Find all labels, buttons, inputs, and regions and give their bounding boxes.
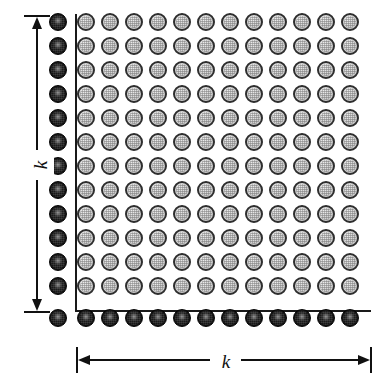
lattice-node-open [197,277,215,295]
lattice-node-open [341,229,359,247]
lattice-node-open [173,133,191,151]
lattice-node-open [341,37,359,55]
lattice-node-open [197,37,215,55]
lattice-node-boundary-left [49,277,67,295]
vertical-dimension-bottom-cap [24,311,50,313]
lattice-node-open [77,253,95,271]
lattice-node-open [317,85,335,103]
lattice-node-open [101,277,119,295]
lattice-node-open [125,157,143,175]
lattice-node-boundary-left [49,133,67,151]
vertical-dimension-shaft-lower [36,176,38,299]
lattice-node-open [245,61,263,79]
lattice-node-open [125,253,143,271]
lattice-node-open [317,109,335,127]
lattice-node-boundary-left [49,85,67,103]
lattice-node-open [197,133,215,151]
lattice-node-open [245,157,263,175]
lattice-node-boundary-bottom [173,309,191,327]
lattice-node-open [101,37,119,55]
lattice-node-open [293,253,311,271]
horizontal-dimension-right-cap [370,347,372,373]
lattice-node-open [173,253,191,271]
lattice-node-open [149,61,167,79]
lattice-node-boundary-bottom [317,309,335,327]
lattice-node-open [221,277,239,295]
lattice-node-open [245,229,263,247]
lattice-node-open [77,181,95,199]
lattice-node-open [221,85,239,103]
lattice-node-boundary-bottom [221,309,239,327]
lattice-node-open [245,277,263,295]
lattice-node-open [317,13,335,31]
lattice-node-open [197,181,215,199]
lattice-node-open [101,133,119,151]
lattice-node-open [269,181,287,199]
lattice-node-boundary-left [49,253,67,271]
lattice-node-boundary-bottom [341,309,359,327]
horizontal-dimension-shaft-left [90,359,210,361]
lattice-node-open [197,157,215,175]
lattice-node-open [125,85,143,103]
lattice-node-open [221,229,239,247]
lattice-node-open [149,205,167,223]
lattice-node-open [245,109,263,127]
lattice-node-open [125,133,143,151]
lattice-node-open [77,277,95,295]
lattice-node-open [125,109,143,127]
lattice-node-open [149,181,167,199]
lattice-node-open [317,277,335,295]
lattice-node-open [221,37,239,55]
lattice-node-open [293,157,311,175]
lattice-node-open [293,277,311,295]
lattice-node-open [125,205,143,223]
lattice-node-open [125,61,143,79]
vertical-dimension-shaft-upper [36,29,38,150]
lattice-node-open [293,85,311,103]
lattice-node-open [125,181,143,199]
lattice-node-open [293,109,311,127]
horizontal-dimension-label: k [211,346,241,376]
lattice-node-open [221,181,239,199]
arrow-head-left-icon [78,355,90,365]
lattice-node-open [149,13,167,31]
lattice-node-open [269,133,287,151]
lattice-node-open [269,109,287,127]
horizontal-dimension-shaft-right [236,359,358,361]
lattice-node-open [269,277,287,295]
lattice-node-boundary-bottom [149,309,167,327]
lattice-node-open [101,181,119,199]
lattice-node-boundary-left [49,109,67,127]
lattice-node-open [317,157,335,175]
lattice-node-boundary-bottom [197,309,215,327]
lattice-node-open [341,13,359,31]
lattice-node-open [197,85,215,103]
lattice-node-boundary-bottom [269,309,287,327]
lattice-node-open [197,229,215,247]
lattice-node-open [317,181,335,199]
lattice-node-open [173,229,191,247]
lattice-grid-figure: k k [0,0,385,388]
lattice-node-open [293,37,311,55]
lattice-node-open [77,13,95,31]
lattice-node-open [293,133,311,151]
lattice-node-open [149,133,167,151]
lattice-node-open [221,61,239,79]
lattice-node-open [101,253,119,271]
lattice-node-open [77,61,95,79]
lattice-node-open [317,253,335,271]
lattice-node-open [221,205,239,223]
lattice-node-open [293,229,311,247]
lattice-node-open [77,133,95,151]
lattice-node-boundary-left [49,13,67,31]
lattice-node-open [341,133,359,151]
lattice-node-boundary-left [49,181,67,199]
lattice-node-open [341,253,359,271]
lattice-node-open [293,61,311,79]
vertical-dimension-label: k [26,150,54,180]
lattice-node-open [221,157,239,175]
lattice-node-open [317,205,335,223]
lattice-node-boundary-bottom [293,309,311,327]
lattice-node-open [197,205,215,223]
lattice-node-open [77,109,95,127]
